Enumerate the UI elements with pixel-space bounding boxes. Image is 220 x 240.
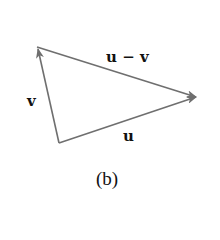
label-v: v xyxy=(27,94,36,109)
vector-v-arrow xyxy=(38,49,59,143)
label-u-minus-v: u − v xyxy=(106,50,149,65)
figure-caption: (b) xyxy=(96,169,118,188)
label-u: u xyxy=(123,129,134,144)
